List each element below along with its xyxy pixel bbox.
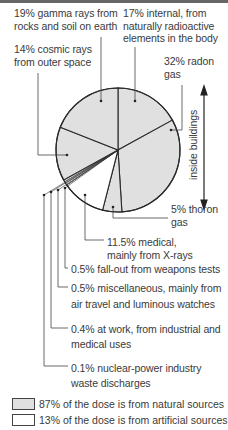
swatch-natural bbox=[12, 398, 35, 410]
label-cosmic: 14% cosmic raysfrom outer space bbox=[14, 43, 92, 68]
legend-artificial: 13% of the dose is from artificial sourc… bbox=[12, 414, 228, 426]
double-arrow-icon bbox=[201, 86, 207, 209]
label-fallout: 0.5% fall-out from weapons tests bbox=[71, 263, 220, 276]
legend-natural: 87% of the dose is from natural sources bbox=[12, 398, 224, 410]
label-radon: 32% radongas bbox=[164, 55, 214, 80]
legend-artificial-label: 13% of the dose is from artificial sourc… bbox=[39, 414, 228, 426]
label-misc: 0.5% miscellaneous, mainly fromair trave… bbox=[71, 282, 221, 310]
label-nuclear: 0.1% nuclear-power industrywaste dischar… bbox=[71, 362, 201, 389]
label-inside-buildings: inside buildings bbox=[187, 110, 200, 180]
label-thoron: 5% thorongas bbox=[171, 203, 218, 228]
label-work: 0.4% at work, from industrial andmedical… bbox=[71, 323, 221, 350]
label-medical: 11.5% medical,mainly from X-rays bbox=[107, 236, 193, 261]
label-internal: 17% internal, fromnaturally radioactivee… bbox=[123, 7, 218, 45]
legend-natural-label: 87% of the dose is from natural sources bbox=[39, 398, 224, 410]
swatch-artificial bbox=[12, 414, 35, 426]
label-gamma: 19% gamma rays fromrocks and soil on ear… bbox=[14, 7, 118, 32]
